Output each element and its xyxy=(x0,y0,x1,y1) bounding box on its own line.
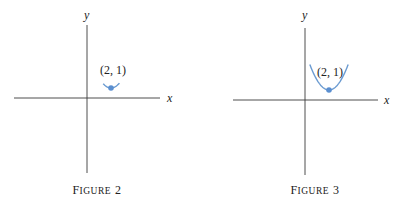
figure-3: x y (2, 1) FIGURE3 xyxy=(233,8,390,197)
caption-word: IGURE xyxy=(298,186,330,196)
vertex-label: (2, 1) xyxy=(100,63,126,77)
x-axis-label: x xyxy=(166,91,173,105)
figure-2: x y (2, 1) FIGURE2 xyxy=(14,8,173,197)
caption-word: IGURE xyxy=(80,186,112,196)
caption-number: 3 xyxy=(333,183,340,197)
caption-initial: F xyxy=(72,183,79,197)
figure-caption: FIGURE3 xyxy=(290,183,339,197)
vertex-point xyxy=(108,85,114,91)
figure-canvas: x y (2, 1) FIGURE2 x y (2, 1) FIGURE3 xyxy=(0,0,415,204)
y-axis-label: y xyxy=(301,8,308,22)
caption-number: 2 xyxy=(115,183,122,197)
y-axis-label: y xyxy=(83,8,90,22)
vertex-label: (2, 1) xyxy=(317,65,343,79)
figure-caption: FIGURE2 xyxy=(72,183,121,197)
caption-initial: F xyxy=(290,183,297,197)
vertex-point xyxy=(326,87,332,93)
x-axis-label: x xyxy=(383,93,390,107)
